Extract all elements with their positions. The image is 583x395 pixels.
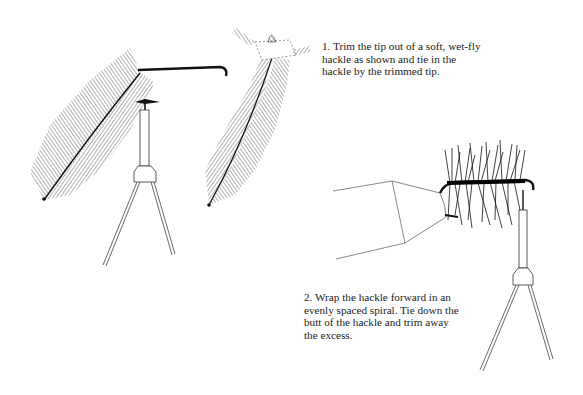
hackle-wraps bbox=[447, 181, 525, 183]
caption-line: 2. Wrap the hackle forward in an bbox=[304, 291, 494, 304]
feather-tip bbox=[268, 35, 276, 42]
fiber-stub-left bbox=[232, 28, 255, 46]
vise-shaft bbox=[140, 110, 149, 166]
caption-line: hackle as shown and tie in the bbox=[322, 53, 522, 66]
trimmed-tip-outline bbox=[255, 40, 296, 60]
figure-1a-hackle-on-hook bbox=[30, 48, 226, 266]
vise-collar bbox=[134, 166, 156, 182]
hook-shank bbox=[138, 67, 226, 76]
caption-line: evenly spaced spiral. Tie down the bbox=[304, 304, 494, 317]
caption-line: the excess. bbox=[304, 329, 494, 342]
vise-shaft bbox=[519, 210, 527, 268]
step-1-caption: 1. Trim the tip out of a soft, wet-fly h… bbox=[322, 40, 522, 78]
fiber-stub-right bbox=[292, 46, 310, 56]
figure-1b-trimmed-hackle bbox=[205, 28, 310, 207]
caption-line: 1. Trim the tip out of a soft, wet-fly bbox=[322, 40, 522, 53]
vise-collar bbox=[513, 268, 533, 285]
step-2-caption: 2. Wrap the hackle forward in an evenly … bbox=[304, 291, 494, 341]
caption-line: butt of the hackle and trim away bbox=[304, 316, 494, 329]
hackle-pliers-outline bbox=[333, 181, 405, 259]
caption-line: hackle by the trimmed tip. bbox=[322, 65, 522, 78]
